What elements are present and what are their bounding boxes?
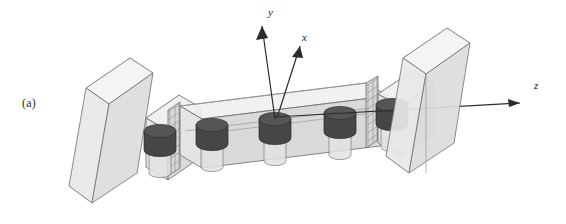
left-support-block [69,58,153,203]
resonator-3 [259,112,291,165]
resonator-2 [196,118,228,171]
figure-canvas: (a) [0,0,566,224]
resonator-1 [144,124,176,177]
isometric-scene: y x z [0,0,566,224]
z-axis-label: z [533,79,539,91]
resonator-4-mass [324,106,356,138]
x-axis-label: x [301,31,307,43]
y-axis-label: y [267,6,273,18]
resonator-2-mass [196,118,228,150]
right-support-block [386,28,470,173]
resonator-1-mass [144,124,176,156]
